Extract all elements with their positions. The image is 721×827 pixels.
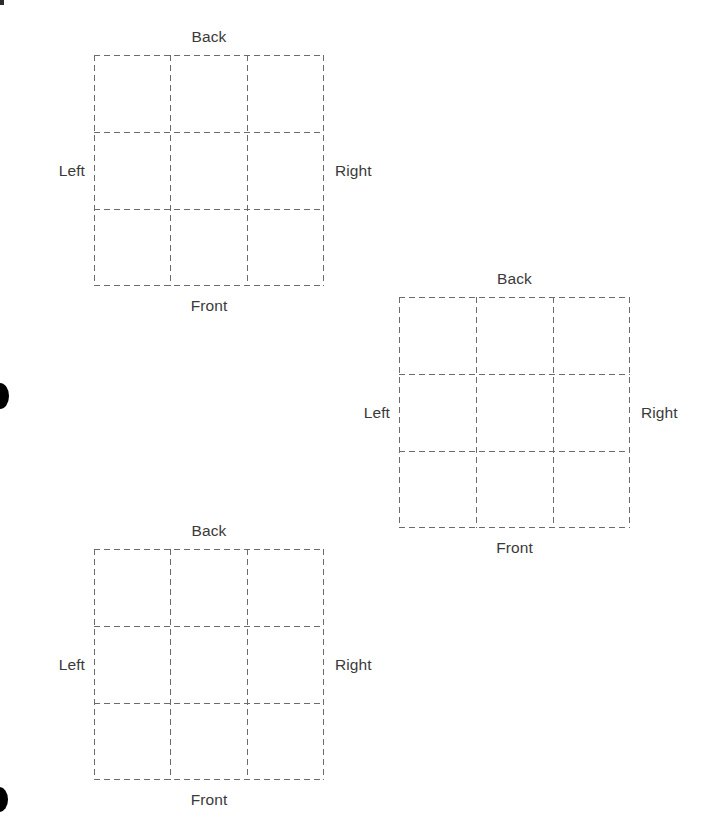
orientation-grid-1: Back Left Right Front <box>94 55 324 286</box>
grid-2-label-back: Back <box>497 271 532 287</box>
orientation-grid-3: Back Left Right Front <box>94 549 324 780</box>
grid-lines-2 <box>399 297 630 528</box>
grid-1-label-left: Left <box>59 163 85 179</box>
corner-speck-icon <box>0 0 4 5</box>
grid-3-label-left: Left <box>59 657 85 673</box>
grid-lines-1 <box>94 55 324 286</box>
grid-1-label-front: Front <box>191 298 228 314</box>
page-canvas: Back Left Right Front Back Left Right Fr… <box>0 0 721 827</box>
grid-svg-3 <box>94 549 324 780</box>
grid-1-label-back: Back <box>192 29 227 45</box>
grid-1-label-right: Right <box>335 163 372 179</box>
grid-3-label-back: Back <box>192 523 227 539</box>
grid-svg-2 <box>399 297 630 528</box>
grid-3-label-front: Front <box>191 792 228 808</box>
grid-lines-3 <box>94 549 324 780</box>
grid-3-label-right: Right <box>335 657 372 673</box>
grid-2-label-front: Front <box>496 540 533 556</box>
edge-blob-bottom-icon <box>0 787 8 812</box>
grid-svg-1 <box>94 55 324 286</box>
orientation-grid-2: Back Left Right Front <box>399 297 630 528</box>
grid-2-label-left: Left <box>364 405 390 421</box>
grid-2-label-right: Right <box>641 405 678 421</box>
edge-blob-middle-icon <box>0 383 9 409</box>
